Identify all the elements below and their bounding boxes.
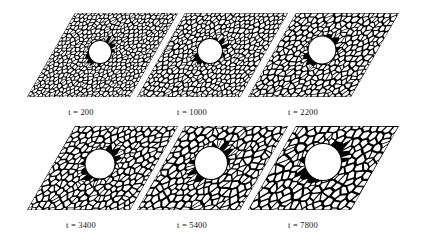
simulation-panels-canvas bbox=[0, 0, 433, 244]
panel-void-hole bbox=[305, 144, 342, 181]
panel-caption-t-3400: t = 3400 bbox=[66, 220, 96, 230]
panel-void-hole bbox=[89, 41, 112, 64]
panel-caption-t-7800: t = 7800 bbox=[288, 220, 318, 230]
panel-void-hole bbox=[85, 149, 115, 179]
panel-void-hole bbox=[195, 147, 228, 180]
panel-caption-t-2200: t = 2200 bbox=[288, 107, 318, 117]
panel-caption-t-200: t = 200 bbox=[68, 107, 94, 117]
grain-growth-figure: t = 200 t = 1000 t = 2200 t = 3400 t = 5… bbox=[0, 0, 433, 244]
panel-void-hole bbox=[198, 39, 223, 64]
panel-void-hole bbox=[308, 36, 336, 64]
panel-caption-t-1000: t = 1000 bbox=[177, 107, 207, 117]
panel-caption-t-5400: t = 5400 bbox=[177, 220, 207, 230]
